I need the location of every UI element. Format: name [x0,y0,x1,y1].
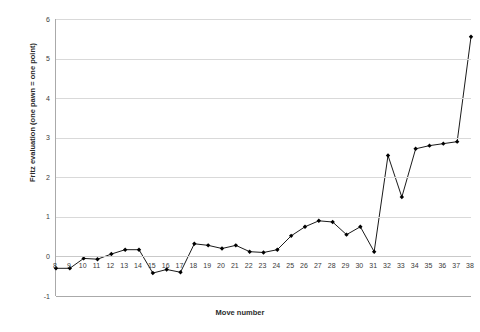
x-tick-16: 16 [159,262,173,269]
data-point-move-23 [261,250,265,254]
x-tick-22: 22 [242,262,256,269]
x-tick-35: 35 [422,262,436,269]
x-tick-10: 10 [76,262,90,269]
x-tick-27: 27 [311,262,325,269]
x-tick-19: 19 [200,262,214,269]
x-tick-14: 14 [131,262,145,269]
data-point-move-11 [95,257,99,261]
data-series-fritz-evaluation [56,19,471,296]
gridline-y-2 [56,177,471,178]
x-tick-30: 30 [352,262,366,269]
x-tick-18: 18 [186,262,200,269]
x-tick-15: 15 [145,262,159,269]
data-point-move-21 [234,243,238,247]
data-point-move-35 [427,143,431,147]
data-point-move-18 [192,242,196,246]
x-tick-32: 32 [380,262,394,269]
gridline-y-0 [56,256,471,257]
data-point-move-30 [358,225,362,229]
data-point-move-33 [400,195,404,199]
data-point-move-37 [455,139,459,143]
x-tick-38: 38 [463,262,477,269]
x-tick-29: 29 [339,262,353,269]
data-point-move-32 [386,153,390,157]
plot-area [55,19,470,296]
data-point-move-13 [123,248,127,252]
x-tick-36: 36 [435,262,449,269]
x-tick-23: 23 [256,262,270,269]
data-point-move-20 [220,246,224,250]
data-point-move-19 [206,243,210,247]
data-point-move-27 [317,219,321,223]
gridline-y-3 [56,138,471,139]
x-tick-31: 31 [366,262,380,269]
data-point-move-22 [247,249,251,253]
y-tick-6: 6 [28,16,50,23]
y-tick-0: 0 [28,253,50,260]
x-tick-33: 33 [394,262,408,269]
data-point-move-36 [441,141,445,145]
x-axis-tick-labels: 8910111213141516171819202122232425262728… [55,262,470,276]
x-tick-13: 13 [117,262,131,269]
gridline-y-5 [56,59,471,60]
x-tick-24: 24 [269,262,283,269]
data-point-move-38 [469,35,473,39]
x-tick-21: 21 [228,262,242,269]
x-tick-25: 25 [283,262,297,269]
x-tick-8: 8 [48,262,62,269]
data-point-move-31 [372,249,376,253]
x-tick-11: 11 [90,262,104,269]
y-axis-title: Fritz evaluation (one pawn = one point) [28,33,37,193]
x-tick-20: 20 [214,262,228,269]
gridline-y-4 [56,98,471,99]
x-axis-title: Move number [0,308,480,317]
series-line [56,37,471,273]
gridline-y--1 [56,296,471,297]
x-tick-34: 34 [408,262,422,269]
chart-container: 6543210-1 891011121314151617181920212223… [0,0,480,332]
x-tick-28: 28 [325,262,339,269]
x-tick-37: 37 [449,262,463,269]
gridline-y-6 [56,19,471,20]
x-tick-26: 26 [297,262,311,269]
x-tick-17: 17 [173,262,187,269]
data-point-move-14 [137,248,141,252]
data-point-move-34 [413,147,417,151]
y-tick--1: -1 [28,293,50,300]
gridline-y-1 [56,217,471,218]
y-tick-1: 1 [28,213,50,220]
x-tick-12: 12 [103,262,117,269]
x-tick-9: 9 [62,262,76,269]
